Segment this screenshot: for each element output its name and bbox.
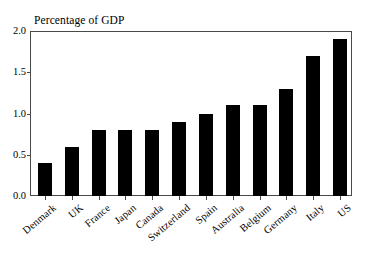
x-axis-tick-mark [179, 196, 180, 200]
x-axis-labels: DenmarkUKFranceJapanCanadaSwitzerlandSpa… [0, 196, 365, 260]
bar [92, 130, 106, 196]
y-axis-tick-label: 1.0 [0, 109, 26, 120]
x-axis-tick-mark [206, 196, 207, 200]
bars-layer [30, 31, 352, 196]
x-axis-tick-mark [233, 196, 234, 200]
bar [306, 56, 320, 196]
x-axis-tick-mark [45, 196, 46, 200]
x-axis-tick-mark [313, 196, 314, 200]
x-axis-tick-mark [340, 196, 341, 200]
x-axis-tick-label-text: Italy [304, 202, 326, 223]
y-axis-tick-label: 1.5 [0, 67, 26, 78]
x-axis-tick-label: UK [66, 202, 85, 220]
bar [145, 130, 159, 196]
x-axis-tick-label: Denmark [20, 202, 58, 236]
x-axis-tick-mark [152, 196, 153, 200]
bar [333, 39, 347, 196]
x-axis-tick-mark [72, 196, 73, 200]
x-axis-tick-label: US [336, 202, 354, 219]
x-axis-tick-label: Italy [304, 202, 326, 223]
bar [279, 89, 293, 196]
bar [253, 105, 267, 196]
bar-chart: Percentage of GDP 0.00.51.01.52.0 Denmar… [0, 0, 365, 260]
bar [38, 163, 52, 196]
x-axis-tick-label-text: US [336, 202, 354, 219]
x-axis-tick-mark [260, 196, 261, 200]
x-axis-tick-mark [99, 196, 100, 200]
bar [65, 147, 79, 197]
x-axis-tick-label-text: Denmark [20, 202, 58, 236]
x-axis-tick-label-text: UK [66, 202, 85, 220]
x-axis-tick-mark [286, 196, 287, 200]
x-axis-tick-label: France [82, 202, 111, 229]
chart-title: Percentage of GDP [34, 14, 124, 27]
x-axis-tick-label-text: France [82, 202, 111, 229]
bar [118, 130, 132, 196]
y-axis-tick-label: 0.5 [0, 150, 26, 161]
bar [199, 114, 213, 197]
x-axis-tick-mark [125, 196, 126, 200]
bar [172, 122, 186, 196]
bar [226, 105, 240, 196]
y-axis-tick-label: 2.0 [0, 26, 26, 37]
